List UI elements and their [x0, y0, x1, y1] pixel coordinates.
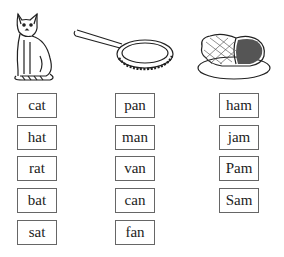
word-box-bat: bat	[17, 188, 57, 213]
cat-icon	[10, 10, 65, 82]
word-box-fan: fan	[115, 220, 155, 245]
word-box-pan: pan	[115, 93, 155, 118]
word-box-jam: jam	[219, 125, 259, 150]
word-box-sat: sat	[17, 220, 57, 245]
word-box-cat: cat	[17, 93, 57, 118]
word-box-rat: rat	[17, 156, 57, 181]
word-box-Sam: Sam	[219, 188, 259, 213]
ham-icon	[192, 30, 276, 82]
word-box-Pam: Pam	[219, 156, 259, 181]
frying-pan-icon	[72, 26, 177, 76]
word-box-van: van	[115, 156, 155, 181]
word-box-can: can	[115, 188, 155, 213]
word-box-hat: hat	[17, 125, 57, 150]
word-box-ham: ham	[219, 93, 259, 118]
word-box-man: man	[115, 125, 155, 150]
